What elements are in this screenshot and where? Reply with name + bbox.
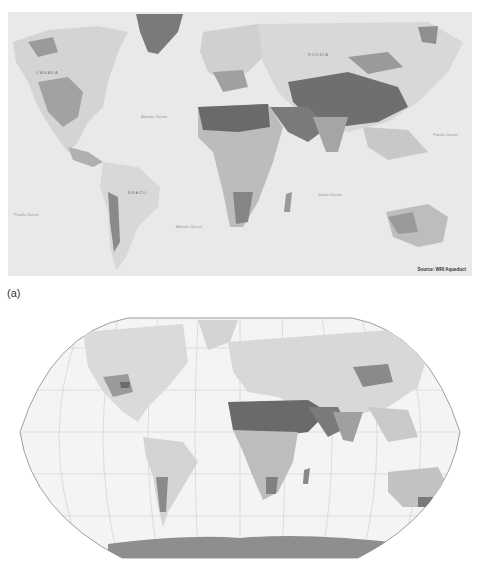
world-map-robinson bbox=[8, 312, 472, 564]
world-map-mercator bbox=[8, 12, 472, 276]
map-panel-b bbox=[8, 312, 472, 564]
panel-label-a: (a) bbox=[7, 287, 20, 299]
source-credit: Source: WRI Aqueduct bbox=[417, 267, 466, 272]
map-panel-a: RUSSIA BRAZIL CANADA Atlantic Ocean Paci… bbox=[8, 12, 472, 276]
ocean-label-south-atlantic: Atlantic Ocean bbox=[176, 224, 202, 229]
ocean-label-south-pacific: Pacific Ocean bbox=[14, 212, 39, 217]
ocean-label-indian: Indian Ocean bbox=[318, 192, 342, 197]
country-label-russia: RUSSIA bbox=[308, 52, 329, 57]
ocean-label-north-atlantic: Atlantic Ocean bbox=[141, 114, 167, 119]
country-label-brazil: BRAZIL bbox=[128, 190, 148, 195]
greenland bbox=[136, 14, 183, 54]
ocean-label-north-pacific: Pacific Ocean bbox=[433, 132, 458, 137]
country-label-canada: CANADA bbox=[36, 70, 59, 75]
